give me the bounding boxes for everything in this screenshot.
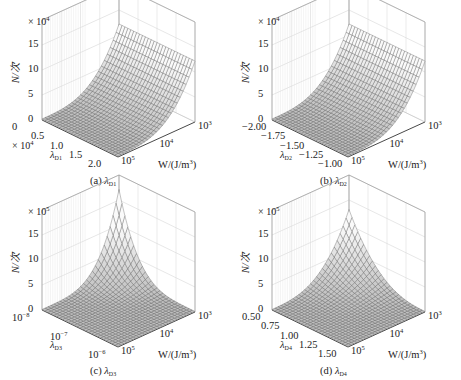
z-tick-label: 10	[28, 64, 39, 75]
lambda-tick-label: 10−6	[88, 349, 105, 361]
z-multiplier: × 105	[258, 206, 279, 217]
figure: 051015× 104N/次00.51.01.52.0× 104λD110510…	[0, 0, 461, 380]
caption-subscript: D4	[339, 371, 346, 377]
lambda-tick-label: 0.75	[261, 321, 279, 332]
z-tick-label: 5	[258, 279, 263, 290]
tick-base: 10	[351, 155, 362, 166]
caption-subscript: D1	[109, 181, 116, 187]
lambda-subscript: D1	[55, 155, 62, 161]
z-axis-label: N/次	[241, 63, 252, 83]
lambda-tick-label: 1.25	[299, 340, 317, 351]
lambda-tick-label: 10−8	[12, 312, 29, 324]
tick-base: 10	[160, 138, 171, 149]
tick-base: 10	[351, 345, 362, 356]
w-tick-label: 103	[198, 120, 212, 132]
tick-exp: 3	[209, 119, 212, 126]
tick-base: 10	[428, 310, 439, 321]
tick-exp: −8	[23, 311, 30, 318]
tick-exp: 4	[170, 137, 173, 144]
tick-base: 10	[12, 312, 23, 323]
panel-b: 051015× 104N/次−2.00−1.75−1.50−1.25−1.00λ…	[230, 0, 460, 190]
z-multiplier-exp: 5	[276, 205, 279, 212]
lambda-axis-label: λD4	[280, 340, 292, 351]
panel-caption: (b) λD2	[320, 175, 347, 187]
z-multiplier: × 105	[28, 206, 49, 217]
lambda-axis-label: λD2	[280, 150, 292, 161]
panel-caption: (a) λD1	[90, 175, 116, 187]
surface-mesh	[42, 190, 195, 347]
w-axis-end: )	[193, 349, 197, 360]
w-tick-label: 104	[160, 138, 174, 150]
tick-base: 10	[121, 345, 132, 356]
tick-exp: 3	[209, 309, 212, 316]
z-axis-label: N/次	[11, 63, 22, 83]
z-tick-label: 15	[28, 229, 39, 240]
caption-subscript: D2	[339, 181, 346, 187]
w-tick-label: 105	[121, 345, 135, 357]
tick-exp: 3	[439, 309, 442, 316]
w-axis-label: W/(J/m3)	[388, 159, 426, 171]
z-multiplier: × 104	[258, 16, 279, 27]
z-tick-label: 5	[28, 89, 33, 100]
w-axis-end: )	[193, 159, 197, 170]
w-tick-label: 105	[351, 345, 365, 357]
z-multiplier-base: × 10	[258, 206, 276, 217]
w-axis-end: )	[423, 349, 427, 360]
z-axis-label: N/次	[11, 253, 22, 273]
z-tick-label: 15	[28, 39, 39, 50]
panel-c: 051015× 105N/次10−810−710−6λD3105104103W/…	[0, 190, 230, 380]
lambda-tick-label: 1.50	[318, 349, 336, 360]
z-multiplier: × 104	[28, 16, 49, 27]
lambda-multiplier-exp: 4	[30, 139, 33, 146]
caption-prefix: (d)	[320, 365, 335, 376]
lambda-multiplier: × 104	[12, 140, 33, 151]
z-tick-label: 5	[28, 279, 33, 290]
tick-exp: 5	[132, 344, 135, 351]
z-tick-label: 15	[258, 39, 269, 50]
lambda-multiplier-base: × 10	[12, 140, 30, 151]
tick-base: 10	[88, 349, 99, 360]
z-tick-label: 0	[28, 114, 33, 125]
w-axis-text: W/(J/m	[388, 349, 420, 360]
z-multiplier-exp: 4	[46, 15, 49, 22]
tick-base: 10	[160, 328, 171, 339]
caption-subscript: D3	[109, 371, 116, 377]
tick-exp: 4	[400, 327, 403, 334]
tick-exp: 4	[170, 327, 173, 334]
w-tick-label: 104	[160, 328, 174, 340]
w-tick-label: 103	[198, 310, 212, 322]
tick-base: 10	[390, 328, 401, 339]
w-axis-label: W/(J/m3)	[158, 349, 196, 361]
caption-prefix: (c)	[90, 365, 104, 376]
z-multiplier-base: × 10	[28, 206, 46, 217]
tick-exp: 5	[132, 154, 135, 161]
z-tick-label: 10	[258, 64, 269, 75]
panel-a: 051015× 104N/次00.51.01.52.0× 104λD110510…	[0, 0, 230, 190]
z-axis-label: N/次	[241, 253, 252, 273]
tick-exp: −7	[61, 330, 68, 337]
lambda-tick-label: 2.0	[88, 159, 101, 170]
lambda-tick-label: 1.5	[69, 150, 82, 161]
tick-base: 10	[428, 120, 439, 131]
z-multiplier-exp: 5	[46, 205, 49, 212]
w-tick-label: 104	[390, 328, 404, 340]
lambda-tick-label: 0.50	[242, 312, 260, 323]
w-axis-label: W/(J/m3)	[158, 159, 196, 171]
z-tick-label: 10	[258, 254, 269, 265]
w-axis-end: )	[423, 159, 427, 170]
caption-prefix: (b)	[320, 175, 335, 186]
panel-caption: (d) λD4	[320, 365, 347, 377]
z-tick-label: 10	[28, 254, 39, 265]
z-multiplier-exp: 4	[276, 15, 279, 22]
z-multiplier-base: × 10	[28, 16, 46, 27]
lambda-subscript: D3	[55, 345, 62, 351]
lambda-tick-label: 0	[12, 122, 17, 133]
tick-base: 10	[198, 120, 209, 131]
lambda-subscript: D2	[285, 155, 292, 161]
tick-exp: 5	[362, 154, 365, 161]
w-axis-text: W/(J/m	[158, 159, 190, 170]
tick-exp: −6	[99, 348, 106, 355]
z-tick-label: 5	[258, 89, 263, 100]
w-axis-text: W/(J/m	[388, 159, 420, 170]
w-tick-label: 105	[351, 155, 365, 167]
